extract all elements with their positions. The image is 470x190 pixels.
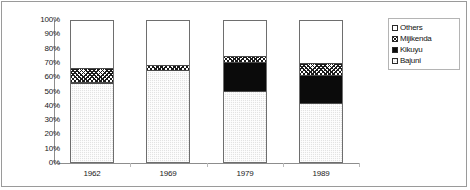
y-axis-tick-label: 40%	[2, 101, 60, 111]
y-axis-tick-label: 90%	[2, 29, 60, 39]
y-axis-tick-mark	[54, 77, 58, 78]
legend-item-label: Mijikenda	[400, 33, 432, 44]
y-axis-tick-label: 60%	[2, 72, 60, 82]
x-axis-tick-mark	[130, 163, 131, 167]
legend-item-mijikenda[interactable]: Mijikenda	[392, 33, 457, 44]
y-axis-tick-label: 80%	[2, 44, 60, 54]
x-axis-tick-label: 1962	[57, 169, 127, 178]
bar-segment-others[interactable]	[147, 21, 189, 65]
y-axis-tick-mark	[54, 106, 58, 107]
x-axis-tick-label: 1979	[210, 169, 280, 178]
x-axis-tick-mark	[283, 163, 284, 167]
chart-frame: OthersMijikendaKikuyuBajuni 100%90%80%70…	[1, 1, 467, 187]
x-axis-tick-label: 1969	[133, 169, 203, 178]
y-axis-tick-label: 70%	[2, 58, 60, 68]
bar-segment-others[interactable]	[224, 21, 266, 56]
chart-legend: OthersMijikendaKikuyuBajuni	[388, 18, 460, 70]
bar-segment-kikuyu[interactable]	[224, 62, 266, 92]
y-axis-tick-label: 100%	[2, 15, 60, 25]
x-axis-tick-mark	[359, 163, 360, 167]
y-axis-tick-mark	[54, 34, 58, 35]
stacked-bar[interactable]	[299, 20, 343, 163]
y-axis-tick-label: 50%	[2, 87, 60, 97]
y-axis-tick-label: 0%	[2, 158, 60, 168]
y-axis-tick-mark	[54, 92, 58, 93]
legend-item-label: Others	[400, 22, 423, 33]
legend-swatch-icon	[392, 25, 398, 31]
legend-swatch-icon	[392, 47, 398, 53]
y-axis-tick-mark	[54, 20, 58, 21]
bar-segment-mijikenda[interactable]	[300, 63, 342, 74]
y-axis-tick-mark	[54, 163, 58, 164]
y-axis-tick-label: 30%	[2, 115, 60, 125]
y-axis-tick-mark	[54, 149, 58, 150]
legend-item-others[interactable]: Others	[392, 22, 457, 33]
bar-segment-mijikenda[interactable]	[71, 68, 113, 82]
bar-segment-bajuni[interactable]	[300, 103, 342, 162]
legend-item-label: Kikuyu	[400, 44, 423, 55]
y-axis-tick-mark	[54, 134, 58, 135]
y-axis-tick-mark	[54, 63, 58, 64]
bar-segment-kikuyu[interactable]	[300, 75, 342, 103]
legend-item-label: Bajuni	[400, 55, 421, 66]
bar-segment-others[interactable]	[71, 21, 113, 68]
bar-segment-bajuni[interactable]	[71, 83, 113, 162]
x-axis-tick-label: 1989	[286, 169, 356, 178]
y-axis-tick-label: 20%	[2, 129, 60, 139]
y-axis-tick-mark	[54, 120, 58, 121]
bar-segment-bajuni[interactable]	[224, 91, 266, 162]
bar-segment-bajuni[interactable]	[147, 70, 189, 162]
legend-item-bajuni[interactable]: Bajuni	[392, 55, 457, 66]
y-axis-tick-mark	[54, 49, 58, 50]
x-axis-tick-mark	[207, 163, 208, 167]
y-axis-tick-label: 10%	[2, 144, 60, 154]
legend-swatch-icon	[392, 58, 398, 64]
stacked-bar[interactable]	[146, 20, 190, 163]
legend-item-kikuyu[interactable]: Kikuyu	[392, 44, 457, 55]
stacked-bar[interactable]	[223, 20, 267, 163]
stacked-bar[interactable]	[70, 20, 114, 163]
bar-segment-others[interactable]	[300, 21, 342, 63]
legend-swatch-icon	[392, 36, 398, 42]
